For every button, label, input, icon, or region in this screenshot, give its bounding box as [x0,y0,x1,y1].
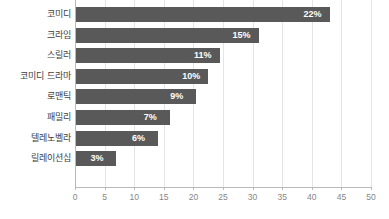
x-tick-label: 0 [73,190,78,204]
x-tick-mark [282,187,283,190]
x-tick-mark [371,187,372,190]
x-tick-mark [134,187,135,190]
x-tick-label: 30 [248,190,257,204]
x-tick-label: 15 [159,190,168,204]
category-label: 스릴러 [1,48,71,63]
bar-value-label: 22% [304,7,322,22]
bar-row: 15% [75,28,371,43]
bar-value-label: 11% [194,48,212,63]
y-axis-line [75,0,76,187]
category-label: 텔레노벨라 [1,131,71,146]
bar-row: 9% [75,89,371,104]
category-label: 로맨틱 [1,89,71,104]
x-tick-mark [75,187,76,190]
x-tick-mark [164,187,165,190]
x-tick-label: 20 [189,190,198,204]
x-tick-label: 45 [337,190,346,204]
bar-row: 22% [75,7,371,22]
x-tick-label: 10 [129,190,138,204]
x-tick-label: 5 [102,190,107,204]
bar-value-label: 9% [170,89,183,104]
bar-row: 7% [75,110,371,125]
bar-value-label: 10% [182,69,200,84]
bar-chart: 22%15%11%10%9%7%6%3% 코미디크라임스릴러코미디 드라마로맨틱… [0,0,389,219]
x-tick-mark [223,187,224,190]
x-tick-label: 25 [218,190,227,204]
bar[interactable] [75,131,158,146]
category-label: 패밀리 [1,110,71,125]
bar-row: 3% [75,151,371,166]
category-label: 코미디 [1,7,71,22]
x-tick-mark [341,187,342,190]
x-tick-label: 50 [366,190,375,204]
x-tick-label: 40 [307,190,316,204]
category-label: 코미디 드라마 [1,69,71,84]
bar[interactable] [75,7,330,22]
x-tick-mark [253,187,254,190]
category-label: 크라임 [1,28,71,43]
x-tick-mark [105,187,106,190]
bar-value-label: 6% [132,131,145,146]
x-tick-mark [193,187,194,190]
x-tick-mark [312,187,313,190]
bar-value-label: 15% [233,28,251,43]
category-label: 릴레이션십 [1,151,71,166]
bar-row: 11% [75,48,371,63]
category-axis: 코미디크라임스릴러코미디 드라마로맨틱패밀리텔레노벨라릴레이션십 [0,0,71,187]
plot-area: 22%15%11%10%9%7%6%3% [75,0,371,187]
gridline [371,0,372,187]
bar[interactable] [75,28,259,43]
x-tick-labels: 05101520253035404550 [75,190,371,204]
x-tick-label: 35 [277,190,286,204]
bar-value-label: 7% [144,110,157,125]
bar-row: 6% [75,131,371,146]
bar-value-label: 3% [90,151,103,166]
bar-row: 10% [75,69,371,84]
